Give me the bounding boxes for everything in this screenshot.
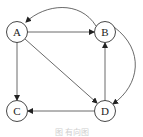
node-b-label: B — [101, 26, 108, 38]
node-b: B — [95, 22, 116, 43]
node-d-label: D — [101, 105, 109, 117]
node-d: D — [95, 101, 116, 122]
edge-b-to-d — [113, 27, 135, 104]
node-a: A — [7, 22, 28, 43]
graph-diagram: A B C D — [0, 0, 143, 137]
node-c: C — [7, 101, 28, 122]
edge-a-to-d — [25, 39, 97, 103]
node-a-label: A — [13, 26, 21, 38]
edge-b-to-a — [26, 8, 96, 27]
figure-caption: 图 有向图 — [0, 126, 143, 137]
node-c-label: C — [13, 105, 20, 117]
